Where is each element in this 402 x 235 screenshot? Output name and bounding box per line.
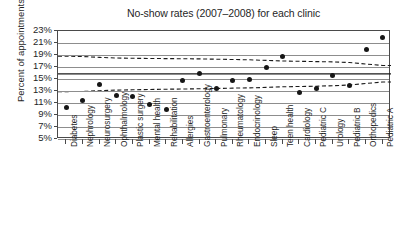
x-tick-mark (232, 139, 233, 144)
chart-title: No-show rates (2007–2008) for each clini… (57, 7, 390, 19)
x-tick-label: Pediatric B (352, 107, 362, 147)
x-tick-label: Cardiology (302, 108, 312, 147)
y-tick-mark (54, 78, 57, 79)
x-tick-label: Rheumatology (235, 94, 245, 147)
x-tick-mark (215, 139, 216, 144)
y-tick-label: 13% (6, 84, 52, 95)
x-tick-mark (82, 139, 83, 144)
y-tick-label: 9% (6, 108, 52, 119)
y-tick-label: 23% (6, 24, 52, 35)
y-tick-label: 21% (6, 36, 52, 47)
x-tick-mark (99, 139, 100, 144)
upper-control-limit-line (58, 56, 391, 65)
x-tick-label: Sleep (269, 126, 279, 147)
y-tick-label: 11% (6, 96, 52, 107)
x-tick-label: Endocrinology (252, 95, 262, 147)
no-show-rates-control-chart: No-show rates (2007–2008) for each clini… (0, 0, 402, 235)
x-tick-label: Diabetes (69, 115, 79, 147)
data-point (264, 65, 269, 70)
x-tick-label: Allergies (185, 116, 195, 147)
x-tick-mark (265, 139, 266, 144)
data-point (314, 86, 319, 91)
data-point (64, 105, 69, 110)
data-point (97, 82, 102, 87)
data-point (297, 90, 302, 95)
x-tick-mark (315, 139, 316, 144)
data-point (364, 47, 369, 52)
x-tick-label: Neurosurgery (102, 97, 112, 147)
y-tick-label: 19% (6, 48, 52, 59)
x-tick-mark (65, 139, 66, 144)
x-tick-label: Teen health (285, 105, 295, 147)
data-point (247, 77, 252, 82)
y-tick-mark (54, 42, 57, 43)
data-point (214, 86, 219, 91)
y-tick-label: 5% (6, 132, 52, 143)
gridline (58, 91, 389, 92)
x-tick-mark (382, 139, 383, 144)
x-tick-mark (115, 139, 116, 144)
x-tick-mark (365, 139, 366, 144)
x-tick-mark (282, 139, 283, 144)
x-tick-label: Ophthalmology (119, 92, 129, 147)
data-point (380, 35, 385, 40)
x-tick-label: Rehabilitation (169, 97, 179, 147)
y-tick-mark (54, 126, 57, 127)
x-tick-label: Pediatric A (385, 108, 395, 147)
data-point (164, 107, 169, 112)
y-tick-label: 15% (6, 72, 52, 83)
x-tick-mark (248, 139, 249, 144)
x-tick-mark (298, 139, 299, 144)
x-tick-label: Nephrology (85, 105, 95, 147)
x-tick-label: Pediatric C (318, 107, 328, 147)
y-tick-mark (54, 66, 57, 67)
y-tick-label: 7% (6, 120, 52, 131)
gridline (58, 43, 389, 44)
x-tick-mark (348, 139, 349, 144)
y-tick-mark (54, 138, 57, 139)
x-tick-label: Pulmonary (219, 108, 229, 147)
gridline (58, 67, 389, 68)
x-tick-mark (182, 139, 183, 144)
x-tick-label: Urology (335, 119, 345, 147)
data-point (280, 54, 285, 59)
x-tick-mark (149, 139, 150, 144)
y-tick-mark (54, 102, 57, 103)
y-tick-mark (54, 30, 57, 31)
y-tick-mark (54, 54, 57, 55)
data-point (347, 83, 352, 88)
y-tick-mark (54, 90, 57, 91)
gridline (58, 79, 389, 80)
y-tick-label: 17% (6, 60, 52, 71)
x-tick-mark (199, 139, 200, 144)
x-tick-label: Gastroenterology (202, 84, 212, 147)
x-tick-mark (165, 139, 166, 144)
x-tick-mark (332, 139, 333, 144)
x-tick-label: Mental health (152, 98, 162, 147)
x-tick-mark (132, 139, 133, 144)
gridline (58, 55, 389, 56)
y-tick-mark (54, 114, 57, 115)
x-tick-label: Plastic surgery (135, 93, 145, 147)
x-tick-label: Orthopedics (368, 103, 378, 147)
